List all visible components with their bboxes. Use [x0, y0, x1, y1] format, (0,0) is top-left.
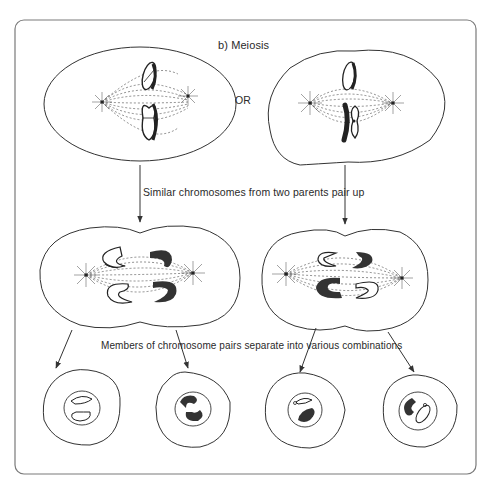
- chromosome-pair-icon: [142, 104, 157, 140]
- meiosis-diagram: b) Meiosis OR Similar chromosomes from t…: [0, 0, 492, 491]
- daughter-cell-3: [265, 373, 345, 448]
- step2-caption: Members of chromosome pairs separate int…: [101, 340, 402, 351]
- or-label: OR: [235, 94, 251, 106]
- aster-left-icon: [74, 263, 98, 287]
- chromosome-pair-icon: [344, 105, 359, 140]
- anaphase-cell-a: [40, 226, 240, 328]
- aster-left-icon: [298, 91, 322, 115]
- chromosome-dark-icon: [150, 250, 172, 267]
- aster-left-icon: [272, 262, 298, 286]
- chromosome-pair-icon: [140, 61, 159, 91]
- diagram-title: b) Meiosis: [218, 39, 269, 51]
- arrow-2d: [388, 332, 414, 372]
- metaphase-cell-b: [268, 50, 445, 165]
- aster-right-icon: [391, 267, 413, 289]
- aster-right-icon: [382, 92, 404, 114]
- daughter-cell-4: [383, 375, 457, 447]
- aster-left-icon: [92, 92, 112, 112]
- step1-caption: Similar chromosomes from two parents pai…: [143, 186, 364, 198]
- diagram-canvas: [0, 0, 492, 491]
- chromosome-pair-icon: [341, 61, 358, 91]
- metaphase-cell-a: [44, 47, 236, 161]
- anaphase-cell-b: [262, 229, 428, 331]
- daughter-cell-2: [156, 372, 230, 447]
- arrow-2a: [56, 330, 72, 368]
- daughter-cell-1: [43, 370, 120, 445]
- aster-right-icon: [178, 86, 198, 106]
- aster-right-icon: [181, 261, 205, 285]
